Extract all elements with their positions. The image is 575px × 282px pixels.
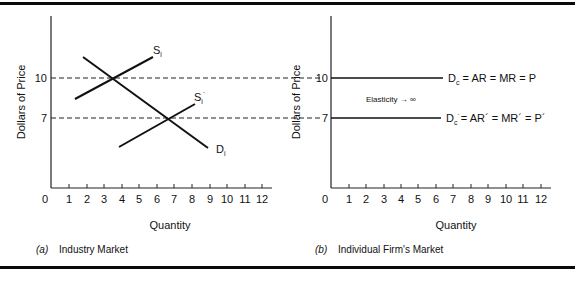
x-tick-label: 6 bbox=[154, 193, 160, 205]
x-axis-tick-labels: 0123456789101112 bbox=[42, 193, 268, 205]
y-tick-label-10: 10 bbox=[35, 72, 47, 84]
x-axis-title: Quantity bbox=[436, 219, 477, 231]
x-tick-label: 10 bbox=[221, 193, 233, 205]
x-tick-label: 4 bbox=[119, 193, 125, 205]
panel-caption-title: Industry Market bbox=[59, 244, 128, 255]
x-tick-label: 4 bbox=[398, 193, 404, 205]
x-tick-label: 10 bbox=[500, 193, 512, 205]
x-tick-label: 5 bbox=[136, 193, 142, 205]
x-tick-label: 3 bbox=[381, 193, 387, 205]
label-dc-equation: Dc = AR = MR = P bbox=[448, 72, 536, 86]
y-axis-title: Dollars of Price bbox=[15, 65, 27, 140]
x-tick-label: 8 bbox=[468, 193, 474, 205]
label-si-prime: Si´ bbox=[194, 90, 206, 105]
x-tick-label: 8 bbox=[189, 193, 195, 205]
x-tick-label: 6 bbox=[433, 193, 439, 205]
x-tick-label: 12 bbox=[535, 193, 547, 205]
x-tick-label: 11 bbox=[239, 193, 250, 205]
x-tick-label: 12 bbox=[256, 193, 268, 205]
x-tick-label: 0 bbox=[42, 193, 48, 205]
x-tick-label: 5 bbox=[415, 193, 421, 205]
y-tick-label-7: 7 bbox=[41, 112, 47, 124]
x-tick-label: 7 bbox=[171, 193, 177, 205]
x-tick-label: 1 bbox=[66, 193, 72, 205]
y-tick-label-10: 10 bbox=[316, 72, 328, 84]
x-axis-title: Quantity bbox=[150, 219, 191, 231]
x-tick-label: 9 bbox=[485, 193, 491, 205]
panel-caption-letter: (b) bbox=[315, 244, 327, 255]
panel-individual-firm-market: 0123456789101112 10 7 Dollars of Price D… bbox=[290, 16, 551, 255]
demand-curve-di bbox=[83, 57, 208, 148]
x-axis-tick-labels: 0123456789101112 bbox=[322, 193, 547, 205]
x-tick-label: 3 bbox=[101, 193, 107, 205]
label-di: Di bbox=[216, 143, 226, 157]
label-dc-prime-equation: Dc´= AR´ = MR´ = P´ bbox=[446, 112, 545, 126]
y-tick-label-7: 7 bbox=[322, 112, 328, 124]
y-axis-title: Dollars of Price bbox=[290, 65, 302, 140]
x-tick-label: 2 bbox=[363, 193, 369, 205]
label-si: Si bbox=[153, 44, 162, 58]
figure-canvas: 0123456789101112 10 7 Dollars of Price S… bbox=[0, 0, 575, 282]
elasticity-annotation: Elasticity → ∞ bbox=[366, 95, 416, 104]
panel-caption-title: Individual Firm's Market bbox=[338, 244, 443, 255]
panel-caption-letter: (a) bbox=[36, 244, 48, 255]
x-tick-label: 0 bbox=[322, 193, 328, 205]
x-tick-label: 11 bbox=[517, 193, 528, 205]
x-tick-label: 1 bbox=[346, 193, 352, 205]
x-tick-label: 7 bbox=[450, 193, 456, 205]
x-tick-label: 2 bbox=[84, 193, 90, 205]
x-tick-label: 9 bbox=[207, 193, 213, 205]
panel-industry-market: 0123456789101112 10 7 Dollars of Price S… bbox=[15, 16, 322, 255]
